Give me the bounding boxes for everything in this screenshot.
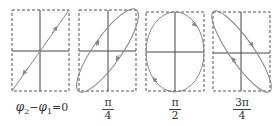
minus-sign: − — [29, 101, 38, 114]
arrow-icon — [24, 68, 28, 73]
fraction-denominator: 4 — [236, 110, 247, 122]
panel-phase-0 — [12, 10, 69, 91]
panel-phase-pi-2 — [146, 12, 204, 92]
phi-symbol: φ — [16, 100, 24, 114]
panel-phase-pi-4 — [67, 2, 147, 100]
label-phase-3pi-4: 3π 4 — [229, 96, 255, 122]
arrow-icon — [52, 28, 56, 33]
equals-zero: =0 — [52, 101, 68, 114]
label-phase-pi-2: π 2 — [163, 96, 187, 122]
fraction-denominator: 4 — [102, 110, 113, 122]
label-phase-0: φ2−φ1=0 — [14, 100, 70, 116]
phi-symbol: φ — [39, 100, 47, 114]
arrow-icon — [249, 41, 252, 45]
panel-phase-3pi-4 — [204, 4, 274, 98]
label-phase-pi-4: π 4 — [96, 96, 120, 122]
trajectory-ellipse — [204, 4, 274, 98]
fraction-denominator: 2 — [169, 110, 180, 122]
